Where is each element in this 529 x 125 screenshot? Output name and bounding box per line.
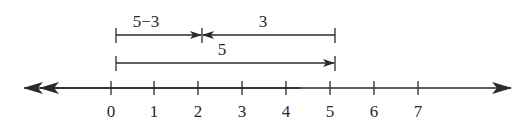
tick-label-5: 5 — [326, 102, 335, 121]
tick-label-2: 2 — [194, 102, 203, 121]
tick-label-1: 1 — [150, 102, 159, 121]
segment-subtrahend: 3 — [203, 12, 335, 43]
tick-label-4: 4 — [282, 102, 291, 121]
ticks: 0 1 2 3 4 5 6 7 — [107, 81, 423, 121]
tick-label-0: 0 — [107, 102, 116, 121]
segment-minuend: 5 — [116, 40, 335, 71]
number-line-diagram: 0 1 2 3 4 5 6 7 5−3 3 5 — [0, 0, 529, 125]
minuend-label: 5 — [218, 40, 227, 59]
difference-label: 5−3 — [133, 12, 160, 31]
subtrahend-label: 3 — [259, 12, 268, 31]
tick-label-7: 7 — [414, 102, 423, 121]
tick-label-6: 6 — [370, 102, 379, 121]
segment-difference: 5−3 — [116, 12, 202, 43]
tick-label-3: 3 — [238, 102, 247, 121]
